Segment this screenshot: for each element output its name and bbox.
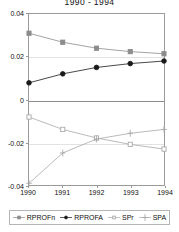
circle-marker-icon <box>60 213 72 222</box>
chart-legend: RPROFnRPROFASPrSPA <box>9 210 170 225</box>
x-tick-mark <box>165 186 166 188</box>
square-marker-icon <box>108 213 120 222</box>
x-tick-mark <box>28 186 29 188</box>
data-point <box>162 147 166 151</box>
y-tick-label: 0 <box>20 96 24 103</box>
series-line <box>29 61 164 83</box>
data-point <box>128 61 133 66</box>
x-tick-label: 1994 <box>157 189 173 196</box>
data-point <box>127 130 133 137</box>
data-point <box>27 31 31 35</box>
legend-label: RPROFn <box>27 214 55 221</box>
legend-item-spa[interactable]: SPA <box>139 213 167 222</box>
legend-item-rprofa[interactable]: RPROFA <box>60 213 103 222</box>
x-axis: 19901991199219931994 <box>28 186 165 200</box>
x-tick-mark <box>131 186 132 188</box>
legend-label: RPROFA <box>74 214 103 221</box>
data-point <box>162 59 167 64</box>
data-point <box>61 40 65 44</box>
data-point <box>60 72 65 77</box>
plus-marker-icon <box>139 213 151 222</box>
data-point <box>61 127 65 131</box>
legend-label: SPA <box>153 214 167 221</box>
chart-title: 1990 - 1994 <box>0 0 179 7</box>
x-tick-mark <box>97 186 98 188</box>
data-point <box>161 126 167 133</box>
y-tick-label: -0.02 <box>8 139 24 146</box>
data-point <box>27 80 32 85</box>
data-point <box>128 142 132 146</box>
x-tick-label: 1992 <box>89 189 105 196</box>
data-point <box>94 46 98 50</box>
data-point <box>162 52 166 56</box>
legend-item-spr[interactable]: SPr <box>108 213 134 222</box>
series-layer <box>29 14 164 185</box>
plot-area <box>28 13 165 186</box>
chart-container: 1990 - 1994 0.040.020-0.02-0.04 19901991… <box>0 0 179 232</box>
data-point <box>128 49 132 53</box>
square-marker-icon <box>13 213 25 222</box>
x-tick-mark <box>62 186 63 188</box>
x-tick-label: 1991 <box>54 189 70 196</box>
legend-label: SPr <box>122 214 134 221</box>
data-point <box>27 115 31 119</box>
y-tick-label: 0.04 <box>10 10 24 17</box>
x-tick-label: 1993 <box>123 189 139 196</box>
y-tick-label: 0.02 <box>10 53 24 60</box>
legend-item-rprofn[interactable]: RPROFn <box>13 213 55 222</box>
y-axis: 0.040.020-0.02-0.04 <box>0 13 26 186</box>
data-point <box>60 150 66 157</box>
series-line <box>29 117 164 149</box>
data-point <box>94 65 99 70</box>
x-tick-label: 1990 <box>20 189 36 196</box>
